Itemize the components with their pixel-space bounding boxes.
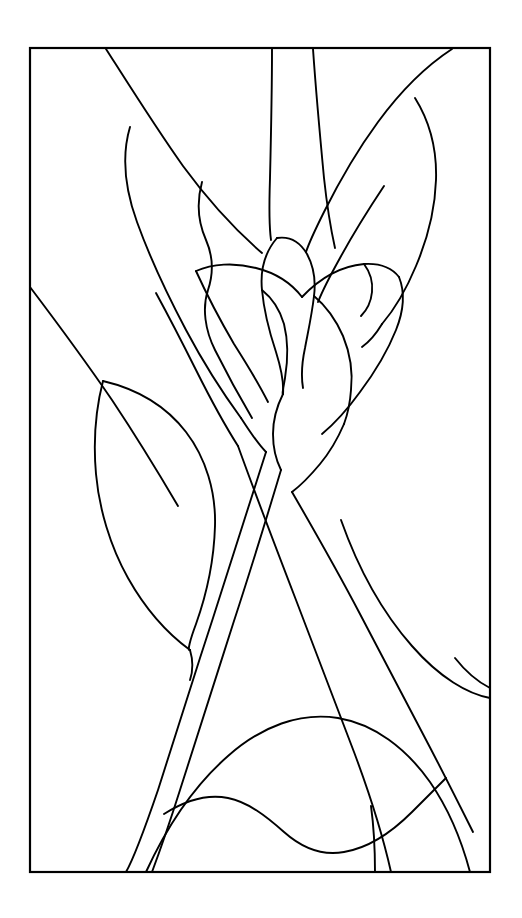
- artboard: [0, 0, 522, 918]
- stained-glass-pattern: [0, 0, 522, 918]
